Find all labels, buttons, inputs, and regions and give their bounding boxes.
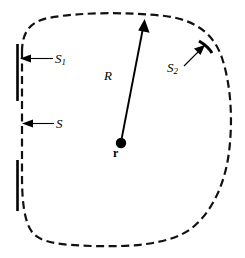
figure-root: S1 S S2 R r (0, 0, 245, 258)
label-s-base: S (56, 116, 63, 131)
figure-canvas (0, 0, 245, 258)
radius-vector-arrowhead-icon (138, 19, 149, 33)
radius-vector-line (121, 28, 143, 142)
label-s: S (56, 117, 63, 132)
s2-arrowhead-icon (194, 45, 205, 55)
label-radius-base: R (104, 68, 112, 83)
s-arrowhead-icon (22, 120, 33, 128)
label-position-vector-base: r (113, 146, 118, 160)
label-position-vector: r (113, 147, 118, 159)
label-s2-subscript: 2 (174, 66, 178, 76)
label-radius: R (104, 69, 112, 82)
label-s2: S2 (167, 61, 178, 76)
label-s1: S1 (55, 52, 66, 67)
label-s1-subscript: 1 (62, 57, 66, 67)
s2-leader-line (184, 51, 199, 66)
